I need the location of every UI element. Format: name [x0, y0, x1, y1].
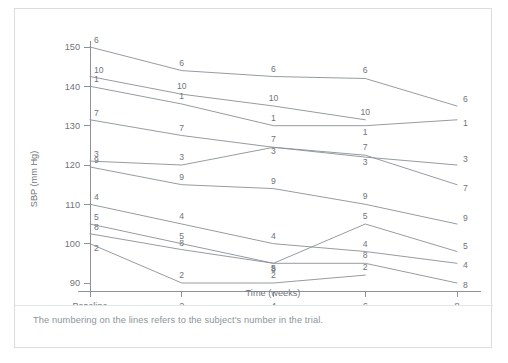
- point-label-subject-1: 1: [179, 91, 184, 101]
- point-label-subject-6: 6: [179, 58, 184, 68]
- point-label-subject-9: 9: [363, 191, 368, 201]
- line-chart: 90100110120130140150 Baseline2468 666661…: [15, 9, 493, 305]
- series-point-labels: 6666610101010111117777733333999994444455…: [94, 35, 468, 290]
- point-label-subject-2: 2: [363, 262, 368, 272]
- point-label-subject-2: 2: [271, 270, 276, 280]
- y-axis: 90100110120130140150: [65, 41, 90, 291]
- figure-card: 90100110120130140150 Baseline2468 666661…: [14, 8, 492, 348]
- x-axis-title: Time (weeks): [246, 288, 301, 298]
- point-label-subject-8: 8: [463, 280, 468, 290]
- point-label-subject-3: 3: [271, 146, 276, 156]
- point-label-subject-9: 9: [271, 176, 276, 186]
- caption-divider: [15, 305, 493, 306]
- point-label-subject-10: 10: [94, 65, 104, 75]
- point-label-subject-1: 1: [463, 118, 468, 128]
- chart-plot-area: 90100110120130140150 Baseline2468 666661…: [15, 9, 493, 305]
- point-label-subject-4: 4: [94, 192, 99, 202]
- y-axis-title: SBP (mm Hg): [29, 151, 39, 208]
- y-tick-label: 110: [65, 200, 80, 210]
- point-label-subject-10: 10: [360, 107, 370, 117]
- point-label-subject-1: 1: [363, 127, 368, 137]
- point-label-subject-1: 1: [94, 74, 99, 84]
- point-label-subject-9: 9: [179, 172, 184, 182]
- point-label-subject-5: 5: [94, 212, 99, 222]
- point-label-subject-8: 8: [179, 238, 184, 248]
- y-tick-label: 140: [65, 82, 80, 92]
- point-label-subject-3: 3: [363, 157, 368, 167]
- point-label-subject-3: 3: [179, 152, 184, 162]
- point-label-subject-2: 2: [179, 270, 184, 280]
- point-label-subject-2: 2: [94, 243, 99, 253]
- y-tick-label: 90: [70, 278, 80, 288]
- series-lines: [90, 47, 457, 283]
- point-label-subject-5: 5: [463, 241, 468, 251]
- point-label-subject-7: 7: [363, 142, 368, 152]
- point-label-subject-8: 8: [363, 250, 368, 260]
- point-label-subject-5: 5: [363, 211, 368, 221]
- point-label-subject-7: 7: [94, 108, 99, 118]
- point-label-subject-3: 3: [463, 154, 468, 164]
- point-label-subject-7: 7: [179, 123, 184, 133]
- y-tick-label: 130: [65, 121, 80, 131]
- point-label-subject-6: 6: [363, 65, 368, 75]
- point-label-subject-4: 4: [463, 260, 468, 270]
- point-label-subject-1: 1: [271, 113, 276, 123]
- series-line-subject-10: [90, 77, 365, 120]
- point-label-subject-8: 8: [94, 222, 99, 232]
- point-label-subject-7: 7: [463, 183, 468, 193]
- point-label-subject-6: 6: [463, 94, 468, 104]
- y-tick-label: 120: [65, 160, 80, 170]
- y-tick-label: 100: [65, 239, 80, 249]
- figure-caption: The numbering on the lines refers to the…: [33, 315, 473, 325]
- point-label-subject-10: 10: [177, 81, 187, 91]
- point-label-subject-4: 4: [363, 239, 368, 249]
- point-label-subject-6: 6: [271, 64, 276, 74]
- point-label-subject-10: 10: [269, 93, 279, 103]
- y-tick-label: 150: [65, 42, 80, 52]
- point-label-subject-9: 9: [463, 213, 468, 223]
- point-label-subject-7: 7: [271, 134, 276, 144]
- point-label-subject-4: 4: [179, 211, 184, 221]
- point-label-subject-9: 9: [94, 155, 99, 165]
- point-label-subject-6: 6: [94, 35, 99, 45]
- point-label-subject-4: 4: [271, 231, 276, 241]
